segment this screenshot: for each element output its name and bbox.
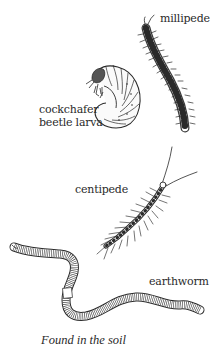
soil-creatures-illustration: millipede cockchafer beetle larva centip… [0,0,216,359]
cockchafer-label-line2: beetle larva [39,116,103,129]
illustration-drawing [0,0,216,359]
centipede-label: centipede [75,183,128,196]
figure-caption: Found in the soil [41,333,126,348]
millipede-drawing [138,15,195,128]
cockchafer-label-line1: cockchafer [39,103,98,116]
earthworm-label: earthworm [149,275,209,288]
centipede-drawing [97,147,197,259]
millipede-label: millipede [160,12,210,25]
